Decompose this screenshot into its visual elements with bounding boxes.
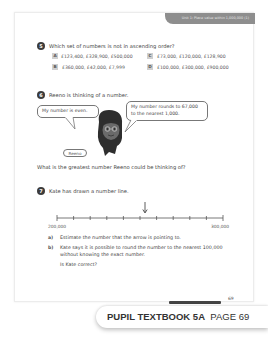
part-b-label: b) xyxy=(48,245,53,250)
question-5-text: Which set of numbers is not in ascending… xyxy=(49,43,175,49)
part-b-text-line2: without knowing the exact number. xyxy=(60,252,145,257)
part-a-label: a) xyxy=(48,235,53,240)
speech-bubble-right: My number rounds to 67,000 to the neares… xyxy=(126,101,208,121)
part-a-text: Estimate the number that the arrow is po… xyxy=(60,235,181,240)
question-5-number: 5 xyxy=(37,42,45,50)
option-c-text: £73,000, £120,000, £128,900 xyxy=(157,54,226,59)
textbook-page-badge: PUPIL TEXTBOOK 5A PAGE 69 xyxy=(96,306,268,328)
textbook-page: Unit 1: Place value within 1,000,000 (1)… xyxy=(14,12,254,302)
question-7-number: 7 xyxy=(37,187,45,195)
reeno-name-tag: Reeno xyxy=(63,149,87,157)
option-d-text: £100,000, £300,000, £900,000 xyxy=(157,65,229,70)
bubble-left-tail-icon xyxy=(63,117,81,131)
option-d-badge: D xyxy=(147,64,153,70)
question-6-text: Reeno is thinking of a number. xyxy=(49,92,128,98)
page-number: 69 xyxy=(228,296,234,301)
footer-bar xyxy=(169,301,221,304)
option-a-text: £123,400, £328,900, £500,000 xyxy=(61,54,133,59)
option-b-text: £360,000, £42,000, £7,999 xyxy=(62,65,125,70)
option-c-badge: C xyxy=(147,53,153,59)
number-line-end-label: 300,000 xyxy=(211,224,229,229)
part-b-text-line1: Kate says it is possible to round the nu… xyxy=(60,245,223,250)
number-line xyxy=(53,201,227,225)
down-arrow-icon xyxy=(143,202,147,213)
option-b-badge: B xyxy=(52,64,58,70)
badge-book-title: PUPIL TEXTBOOK 5A xyxy=(107,311,205,322)
question-6-number: 6 xyxy=(37,91,45,99)
part-b-text-line3: Is Kate correct? xyxy=(60,262,97,267)
option-a-badge: A xyxy=(52,53,58,59)
unit-header: Unit 1: Place value within 1,000,000 (1) xyxy=(165,13,255,24)
question-6-prompt: What is the greatest number Reeno could … xyxy=(37,164,186,170)
badge-page-label: PAGE 69 xyxy=(210,311,249,322)
number-line-start-label: 200,000 xyxy=(48,224,66,229)
question-7-text: Kate has drawn a number line. xyxy=(49,188,129,194)
reeno-character-icon xyxy=(91,108,129,158)
